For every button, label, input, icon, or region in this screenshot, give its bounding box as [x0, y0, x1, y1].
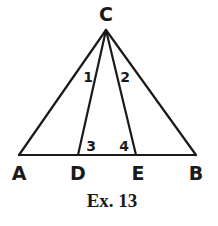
segment-ce: [106, 30, 136, 155]
angle-label-4: 4: [119, 138, 129, 154]
point-label-c: C: [99, 3, 113, 25]
angle-label-2: 2: [120, 69, 130, 85]
point-label-a: A: [12, 162, 27, 184]
angle-label-1: 1: [83, 69, 93, 85]
point-label-d: D: [70, 162, 86, 184]
point-label-b: B: [189, 162, 203, 184]
angle-label-3: 3: [86, 138, 96, 154]
figure-caption: Ex. 13: [87, 190, 138, 211]
triangle-diagram: C A D E B 1 2 3 4 Ex. 13: [0, 0, 218, 226]
segment-cb: [106, 30, 196, 155]
point-label-e: E: [132, 162, 145, 184]
